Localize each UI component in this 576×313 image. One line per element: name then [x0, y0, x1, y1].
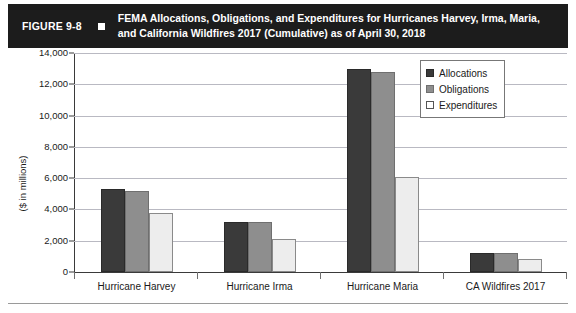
legend-swatch-expenditures	[426, 101, 434, 109]
x-axis-label-1: Hurricane Irma	[198, 280, 321, 296]
y-tick-label: 14,000	[39, 48, 68, 58]
bar-expenditures-1	[272, 239, 296, 272]
bar-obligations-3	[494, 253, 518, 272]
x-axis-label-2: Hurricane Maria	[321, 280, 444, 296]
legend-label-expenditures: Expenditures	[439, 100, 497, 111]
y-tick-label: 4,000	[44, 205, 68, 215]
legend-swatch-allocations	[426, 69, 434, 77]
y-tick-label: 2,000	[44, 236, 68, 246]
y-tick-mark	[69, 53, 74, 54]
y-tick-label: 0	[63, 267, 68, 277]
x-axis-labels: Hurricane HarveyHurricane IrmaHurricane …	[75, 280, 567, 296]
x-tick	[197, 272, 198, 279]
figure-caption: FEMA Allocations, Obligations, and Expen…	[118, 11, 558, 41]
bar-group	[75, 53, 198, 272]
x-tick	[443, 272, 444, 279]
y-tick-mark	[69, 115, 74, 116]
bar-allocations-0	[101, 189, 125, 272]
y-tick-mark	[69, 209, 74, 210]
bar-group	[198, 53, 321, 272]
figure-number: FIGURE 9-8	[22, 20, 82, 32]
legend-item-allocations: Allocations	[426, 65, 497, 81]
bar-chart: ($ in millions) 02,0004,0006,0008,00010,…	[0, 48, 576, 313]
legend-label-obligations: Obligations	[439, 84, 489, 95]
bar-obligations-0	[125, 191, 149, 272]
y-axis-label: ($ in millions)	[17, 129, 28, 239]
y-tick-label: 6,000	[44, 173, 68, 183]
bar-allocations-3	[470, 253, 494, 272]
y-tick-mark	[69, 178, 74, 179]
x-axis-label-3: CA Wildfires 2017	[444, 280, 567, 296]
x-axis-label-0: Hurricane Harvey	[75, 280, 198, 296]
square-bullet-icon	[98, 23, 105, 30]
y-tick-label: 12,000	[39, 80, 68, 90]
bar-expenditures-0	[149, 213, 173, 272]
chart-legend: Allocations Obligations Expenditures	[420, 60, 505, 118]
figure-title-bar: FIGURE 9-8 FEMA Allocations, Obligations…	[8, 4, 568, 48]
legend-swatch-obligations	[426, 85, 434, 93]
bar-allocations-1	[224, 222, 248, 272]
y-tick-label: 8,000	[44, 142, 68, 152]
x-tick	[320, 272, 321, 279]
legend-item-expenditures: Expenditures	[426, 97, 497, 113]
x-tick	[566, 272, 567, 279]
legend-item-obligations: Obligations	[426, 81, 497, 97]
x-tick	[74, 272, 75, 279]
y-tick-label: 10,000	[39, 111, 68, 121]
bottom-rule	[8, 303, 568, 304]
legend-label-allocations: Allocations	[439, 68, 487, 79]
y-tick-mark	[69, 84, 74, 85]
bar-allocations-2	[347, 69, 371, 272]
bar-obligations-2	[371, 72, 395, 272]
y-tick-mark	[69, 146, 74, 147]
bar-obligations-1	[248, 222, 272, 272]
bar-expenditures-3	[518, 259, 542, 272]
y-tick-mark	[69, 240, 74, 241]
bar-expenditures-2	[395, 177, 419, 272]
